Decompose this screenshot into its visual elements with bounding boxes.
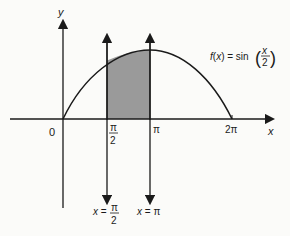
y-axis-label: y (57, 6, 65, 18)
svg-text:(: ( (255, 48, 261, 68)
line-label-pi-half: x = (92, 206, 107, 217)
tick-zero: 0 (49, 126, 55, 138)
tick-pi: π (153, 124, 160, 135)
tick-two-pi: 2π (225, 124, 238, 135)
line-label-pi-half-num: π (111, 202, 118, 213)
tick-pi-half-num: π (110, 122, 117, 133)
line-label-pi-half-den: 2 (111, 215, 117, 226)
function-label-num: x (261, 45, 268, 56)
function-label: f(x) = sin (210, 51, 249, 62)
svg-text:): ) (270, 48, 276, 68)
x-axis-label: x (267, 125, 274, 137)
line-label-pi: x = π (136, 206, 160, 217)
diagram: y x 0 π 2 π 2π f(x) = sin ( x 2 ) x = π … (0, 0, 290, 236)
tick-pi-half-den: 2 (110, 135, 116, 146)
function-label-den: 2 (262, 57, 268, 68)
